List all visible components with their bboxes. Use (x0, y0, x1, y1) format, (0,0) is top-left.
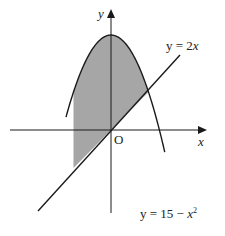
graph-diagram: y x O y = 2x y = 15 − x2 (0, 0, 225, 236)
x-axis-arrow-icon (198, 126, 207, 134)
y-axis-arrow-icon (107, 9, 115, 18)
line-equation-label: y = 2x (166, 38, 199, 53)
parabola-equation-exp: 2 (193, 206, 197, 215)
parabola-equation-label: y = 15 − x2 (140, 206, 197, 221)
line-equation-var: x (192, 38, 199, 53)
x-axis-label: x (197, 134, 204, 149)
line-equation-lhs: y = 2 (166, 38, 193, 53)
y-axis-label: y (96, 6, 104, 21)
parabola-equation-lhs: y = 15 − (140, 206, 187, 221)
origin-label: O (114, 132, 123, 147)
